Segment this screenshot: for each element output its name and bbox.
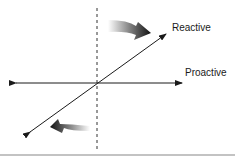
proactive-label: Proactive xyxy=(185,67,227,78)
shaded-arrow-left-icon xyxy=(50,119,90,133)
reactive-label: Reactive xyxy=(172,22,211,33)
shaded-arrow-right-icon xyxy=(108,20,151,40)
